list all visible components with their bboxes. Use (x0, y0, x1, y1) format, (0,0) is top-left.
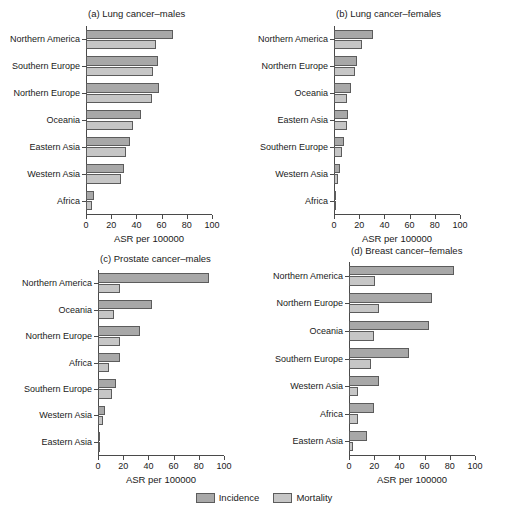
category-label-d-3: Southern Europe (275, 354, 343, 364)
x-axis-line-d (349, 455, 475, 456)
bar-d-incidence-4 (349, 376, 379, 386)
bar-d-incidence-6 (349, 431, 367, 441)
category-label-d-2: Oceania (309, 326, 343, 336)
bar-d-mortality-0 (349, 276, 375, 286)
bar-d-incidence-3 (349, 348, 409, 358)
category-label-d-4: Western Asia (290, 381, 343, 391)
x-tick-label-d-60: 60 (413, 461, 437, 471)
bar-d-incidence-5 (349, 403, 374, 413)
legend-label-incidence: Incidence (219, 492, 260, 503)
legend-item-incidence: Incidence (196, 492, 260, 503)
x-axis-title-d: ASR per 100000 (349, 474, 475, 485)
bar-d-incidence-2 (349, 321, 429, 331)
plot-area-d: 020406080100ASR per 100000 (349, 262, 475, 455)
x-tick-d-20 (374, 456, 375, 460)
x-tick-label-d-0: 0 (337, 461, 361, 471)
category-label-d-6: Eastern Asia (292, 436, 343, 446)
legend-label-mortality: Mortality (296, 492, 332, 503)
x-tick-label-d-100: 100 (463, 461, 487, 471)
x-tick-label-d-40: 40 (387, 461, 411, 471)
bar-d-incidence-1 (349, 293, 432, 303)
category-label-d-0: Northern America (273, 271, 343, 281)
bar-d-mortality-1 (349, 304, 379, 314)
bar-d-mortality-3 (349, 359, 371, 369)
bar-d-mortality-5 (349, 414, 358, 424)
x-tick-d-0 (349, 456, 350, 460)
x-tick-label-d-80: 80 (438, 461, 462, 471)
x-tick-d-100 (475, 456, 476, 460)
bar-d-mortality-2 (349, 331, 374, 341)
panel-title-d: (d) Breast cancer–females (351, 245, 462, 256)
x-tick-d-80 (450, 456, 451, 460)
category-label-d-1: Northern Europe (276, 298, 343, 308)
x-tick-d-60 (425, 456, 426, 460)
category-label-d-5: Africa (320, 409, 343, 419)
x-tick-d-40 (399, 456, 400, 460)
legend-swatch-mortality (273, 493, 292, 503)
x-tick-label-d-20: 20 (362, 461, 386, 471)
bar-d-mortality-6 (349, 442, 353, 452)
bar-d-incidence-0 (349, 266, 454, 276)
legend-item-mortality: Mortality (273, 492, 332, 503)
bar-d-mortality-4 (349, 387, 358, 397)
figure-panel-grid: (a) Lung cancer–males020406080100ASR per… (0, 0, 528, 519)
chart-legend: Incidence Mortality (0, 492, 528, 503)
panel-d-breast-cancer-females: (d) Breast cancer–females020406080100ASR… (0, 0, 528, 519)
legend-swatch-incidence (196, 493, 215, 503)
